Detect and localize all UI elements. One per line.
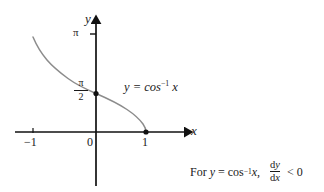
point-y-intercept bbox=[93, 91, 98, 96]
derivative-numerator: dy bbox=[270, 159, 280, 170]
numerator-y: y bbox=[275, 159, 280, 170]
curve-label-head: y = cos bbox=[124, 80, 161, 94]
caption-prefix: For bbox=[190, 166, 210, 178]
denominator-x: x bbox=[275, 172, 280, 183]
derivative-denominator: dx bbox=[270, 172, 280, 183]
pi-over-two-denominator: 2 bbox=[72, 92, 90, 103]
x-tick-label-zero: 0 bbox=[87, 136, 93, 148]
caption-suffix: < 0 bbox=[284, 166, 303, 178]
caption-exponent: −1 bbox=[244, 168, 252, 175]
x-tick-label-one: 1 bbox=[142, 136, 148, 148]
caption-comma: , bbox=[257, 166, 266, 178]
y-tick-label-pi: π bbox=[73, 27, 79, 38]
x-axis-label: x bbox=[191, 124, 197, 137]
pi-over-two-numerator: π bbox=[72, 78, 90, 89]
caption-equals-cos: = cos bbox=[215, 166, 244, 178]
y-tick-label-pi-over-two: π 2 bbox=[72, 78, 90, 102]
figure-inverse-cosine-graph: y x π π 2 −1 0 1 y = cos−1 x For y = cos… bbox=[0, 0, 324, 192]
x-tick-label-neg-one: −1 bbox=[24, 136, 37, 148]
curve-label: y = cos−1 x bbox=[124, 80, 178, 94]
derivative-fraction: dy dx bbox=[270, 159, 280, 183]
y-axis-label: y bbox=[85, 12, 91, 25]
curve-label-tail: x bbox=[169, 80, 178, 94]
curve-label-exponent: −1 bbox=[161, 79, 169, 88]
point-x-intercept bbox=[143, 129, 148, 134]
derivative-note: For y = cos−1x, dy dx < 0 bbox=[190, 160, 303, 184]
